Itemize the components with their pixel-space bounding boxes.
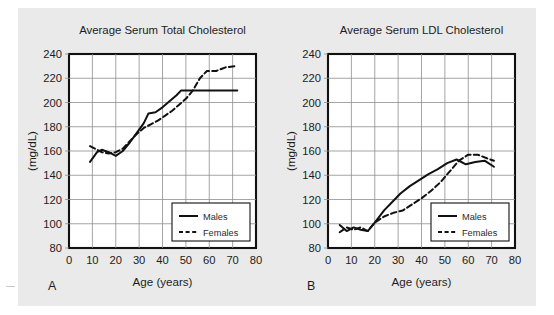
x-axis-label: Age (years): [392, 275, 452, 288]
y-tick-label: 200: [302, 97, 321, 109]
corner-registration-mark: [6, 286, 15, 287]
y-tick-label: 120: [43, 194, 62, 206]
y-tick-label: 100: [43, 218, 62, 230]
x-tick-label: 30: [392, 254, 404, 266]
x-tick-label: 20: [369, 254, 381, 266]
x-tick-label: 0: [66, 254, 72, 266]
y-tick-label: 160: [43, 145, 62, 157]
chart-title: Average Serum LDL Cholesterol: [340, 24, 503, 36]
x-tick-label: 70: [226, 254, 238, 266]
legend-label-males: Males: [203, 212, 228, 222]
y-axis-label: (mg/dL): [284, 131, 297, 171]
y-tick-label: 200: [43, 97, 62, 109]
y-tick-label: 140: [43, 169, 62, 181]
x-tick-label: 10: [86, 254, 98, 266]
chart-panel-b: Average Serum LDL Cholesterol80100120140…: [277, 8, 536, 306]
chart-panel-a: Average Serum Total Cholesterol801001201…: [18, 8, 277, 306]
y-tick-label: 160: [302, 145, 321, 157]
x-tick-label: 70: [485, 254, 497, 266]
x-axis-label: Age (years): [133, 275, 193, 288]
x-tick-label: 10: [345, 254, 357, 266]
legend-label-females: Females: [462, 228, 498, 238]
y-tick-label: 220: [43, 72, 62, 84]
chart-title: Average Serum Total Cholesterol: [79, 24, 246, 36]
x-tick-label: 0: [325, 254, 331, 266]
figure-container: Average Serum Total Cholesterol801001201…: [0, 0, 554, 315]
x-tick-label: 50: [439, 254, 451, 266]
x-tick-label: 60: [462, 254, 474, 266]
x-tick-label: 50: [180, 254, 192, 266]
y-tick-label: 220: [302, 72, 321, 84]
x-tick-label: 40: [156, 254, 168, 266]
x-tick-label: 80: [250, 254, 262, 266]
y-tick-label: 80: [309, 242, 321, 254]
chart-b-svg: Average Serum LDL Cholesterol80100120140…: [277, 8, 536, 306]
x-tick-label: 40: [415, 254, 427, 266]
legend-label-females: Females: [203, 228, 239, 238]
y-axis-label: (mg/dL): [25, 131, 38, 171]
y-tick-label: 180: [302, 121, 321, 133]
y-tick-label: 240: [302, 48, 321, 60]
chart-a-svg: Average Serum Total Cholesterol801001201…: [18, 8, 277, 306]
x-tick-label: 80: [509, 254, 521, 266]
y-tick-label: 120: [302, 194, 321, 206]
legend-label-males: Males: [462, 212, 487, 222]
y-tick-label: 140: [302, 169, 321, 181]
panel-letter: A: [48, 279, 57, 293]
y-tick-label: 180: [43, 121, 62, 133]
y-tick-label: 100: [302, 218, 321, 230]
panel-letter: B: [307, 279, 315, 293]
y-tick-label: 240: [43, 48, 62, 60]
y-tick-label: 80: [50, 242, 62, 254]
x-tick-label: 20: [110, 254, 122, 266]
x-tick-label: 30: [133, 254, 145, 266]
x-tick-label: 60: [203, 254, 215, 266]
